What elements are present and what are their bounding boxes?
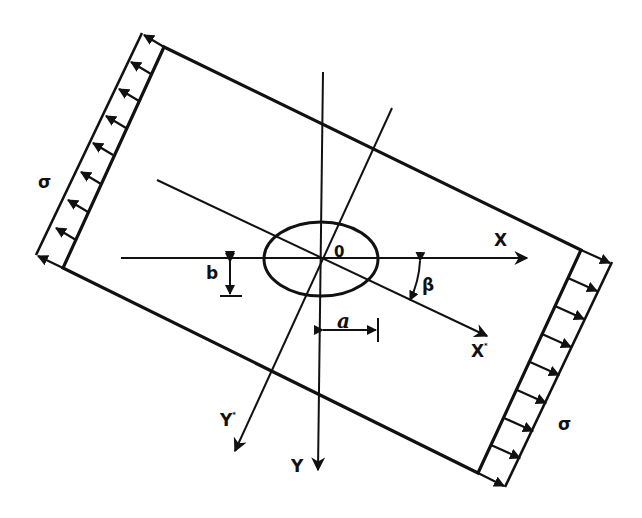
dimension-b [220, 260, 242, 296]
y-star-mark: * [232, 411, 236, 419]
origin-label: 0 [334, 245, 344, 260]
left-load-band-edge [36, 33, 142, 255]
x-star-mark: * [484, 342, 488, 350]
angle-beta-arc [410, 261, 420, 300]
y-star-letter: Y [220, 410, 232, 430]
stress-label-right: σ [558, 416, 571, 433]
x-star-letter: X [471, 341, 484, 361]
x-star-axis-label: X* [471, 343, 488, 360]
x-axis-label: X [494, 232, 507, 249]
stress-label-left: σ [38, 174, 51, 191]
y-axis-label: Y [291, 458, 303, 475]
right-load-arrows [478, 250, 610, 486]
y-star-axis-label: Y* [220, 412, 236, 429]
semi-axis-b-label: b [206, 265, 218, 282]
dimension-a [323, 318, 378, 342]
semi-axis-a-label: a [337, 311, 350, 331]
left-load-arrows [38, 35, 164, 268]
angle-beta-label: β [422, 277, 434, 294]
y-axis [318, 72, 323, 470]
diagram-drawing [0, 0, 642, 518]
diagram-canvas: σ σ 0 X Y X* Y* b a β [0, 0, 642, 518]
